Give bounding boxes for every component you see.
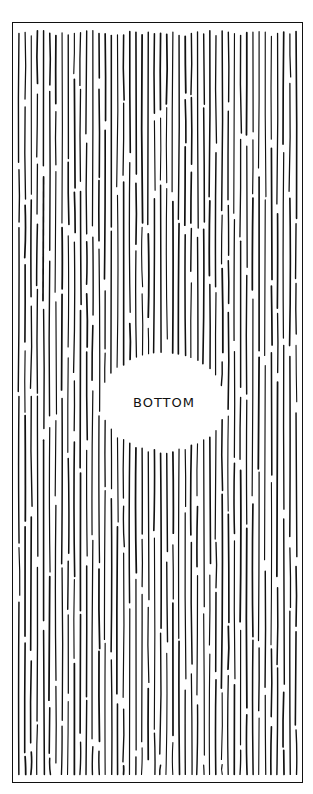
- hatched-panel: BOTTOM: [12, 22, 303, 783]
- bottom-label: BOTTOM: [108, 361, 220, 443]
